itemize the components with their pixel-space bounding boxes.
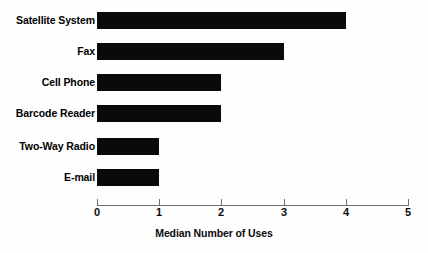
bar-row: Barcode Reader (0, 105, 428, 122)
bar-row: Two-Way Radio (0, 138, 428, 155)
bar-chart: Satellite System Fax Cell Phone Barcode … (0, 0, 428, 253)
category-label: Fax (77, 43, 95, 60)
category-label: Barcode Reader (16, 105, 95, 122)
x-axis-tick-label: 5 (393, 206, 423, 218)
bar-row: Fax (0, 43, 428, 60)
bar-row: E-mail (0, 169, 428, 186)
bar-row: Satellite System (0, 12, 428, 29)
bar (97, 43, 284, 60)
x-axis-tick (97, 199, 98, 206)
bar (97, 105, 221, 122)
x-axis-tick-label: 1 (144, 206, 174, 218)
x-axis-tick (159, 199, 160, 206)
x-axis-tick-label: 4 (331, 206, 361, 218)
x-axis-tick-label: 0 (82, 206, 112, 218)
category-label: Satellite System (16, 12, 95, 29)
bar (97, 12, 346, 29)
x-axis-tick (221, 199, 222, 206)
category-label: Cell Phone (42, 74, 95, 91)
category-label: E-mail (64, 169, 95, 186)
bar (97, 138, 159, 155)
x-axis-tick-label: 3 (269, 206, 299, 218)
bar-row: Cell Phone (0, 74, 428, 91)
x-axis-tick (284, 199, 285, 206)
x-axis-title: Median Number of Uses (0, 227, 428, 239)
x-axis-tick-label: 2 (206, 206, 236, 218)
category-label: Two-Way Radio (19, 138, 95, 155)
x-axis-tick (346, 199, 347, 206)
bar (97, 169, 159, 186)
bar (97, 74, 221, 91)
x-axis-tick (408, 199, 409, 206)
